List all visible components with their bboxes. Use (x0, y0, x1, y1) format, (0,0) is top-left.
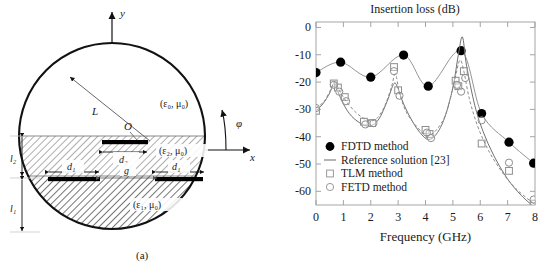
y-tick-label: -10 (295, 48, 311, 62)
legend-item: FDTD method (326, 140, 409, 152)
figure-root: y x φ L O (ε₀, μ₀) (ε₂, μ₀) (ε₁, μ₀) (0, 0, 550, 273)
x-tick-label: 6 (477, 210, 483, 224)
legend-marker-open-circle-icon (326, 183, 333, 190)
radius-leader-line (70, 77, 150, 141)
x-tick-label: 8 (532, 210, 538, 224)
data-point-fdtd (424, 82, 433, 91)
legend-label: FDTD method (341, 140, 409, 152)
region-eps1-label: (ε₁, μ₀) (133, 199, 161, 211)
data-point-fdtd (366, 73, 375, 82)
panel-a-caption: (a) (136, 249, 148, 261)
x-tick-label: 2 (368, 210, 374, 224)
chart-xaxis-label: Frequency (GHz) (380, 229, 471, 244)
y-tick-label: 0 (305, 20, 311, 34)
strip-top-conductor (102, 140, 148, 144)
data-point-fetd (505, 159, 512, 166)
chart-legend: FDTD methodReference solution [23]TLM me… (324, 140, 450, 193)
region-eps0-label: (ε₀, μ₀) (160, 98, 188, 110)
legend-marker-filled-circle-icon (326, 142, 335, 151)
phi-arc-arrow (222, 110, 226, 150)
legend-label: Reference solution [23] (341, 154, 450, 166)
diagram-svg: y x φ L O (ε₀, μ₀) (ε₂, μ₀) (ε₁, μ₀) (0, 0, 280, 273)
data-point-tlm (506, 167, 513, 174)
data-point-fetd (457, 88, 464, 95)
x-tick-label: 5 (450, 210, 456, 224)
y-axis-label: y (119, 7, 125, 19)
x-tick-label: 4 (423, 210, 429, 224)
y-tick-label: -20 (295, 75, 311, 89)
y-tick-label: -40 (295, 130, 311, 144)
dim-g-label: g (124, 165, 129, 176)
x-axis-label: x (249, 151, 255, 163)
legend-item: TLM method (327, 167, 403, 179)
dim-l2-label: l₂ (10, 153, 17, 164)
y-tick-label: -50 (295, 157, 311, 171)
x-tick-label: 3 (395, 210, 401, 224)
data-point-fdtd (529, 159, 538, 168)
x-tick-label: 7 (505, 210, 511, 224)
chart-tick-labels: 0123456780-10-20-30-40-50-60 (295, 20, 538, 224)
data-point-fdtd (399, 50, 408, 59)
data-point-fetd (390, 68, 397, 75)
origin-label: O (124, 120, 132, 132)
data-point-fdtd (336, 58, 345, 67)
legend-item: Reference solution [23] (324, 154, 450, 166)
panel-a-diagram: y x φ L O (ε₀, μ₀) (ε₂, μ₀) (ε₁, μ₀) (0, 0, 280, 273)
region-eps1-fill (10, 176, 220, 236)
strip-bottom-right-conductor (155, 177, 203, 181)
dim-d1-right-label: d₁ (172, 161, 180, 172)
data-point-fdtd (311, 68, 320, 77)
dim-d1-left-label: d₁ (67, 161, 75, 172)
panel-b-chart: Insertion loss (dB) 0123456780-10-20-30-… (280, 0, 550, 273)
dim-l1-label: l₁ (10, 203, 16, 214)
radius-label: L (91, 105, 98, 117)
legend-label: FETD method (341, 181, 407, 193)
legend-item: FETD method (326, 181, 407, 193)
y-tick-label: -60 (295, 184, 311, 198)
legend-label: TLM method (341, 167, 403, 179)
region-eps2-label: (ε₂, μ₀) (159, 145, 187, 157)
data-point-fetd (362, 121, 369, 128)
chart-title: Insertion loss (dB) (370, 2, 459, 16)
x-tick-label: 0 (313, 210, 319, 224)
phi-label: φ (236, 117, 242, 129)
data-point-fetd (478, 117, 485, 124)
x-tick-label: 1 (340, 210, 346, 224)
insertion-loss-chart: Insertion loss (dB) 0123456780-10-20-30-… (280, 0, 550, 273)
y-tick-label: -30 (295, 102, 311, 116)
legend-marker-open-square-icon (327, 170, 334, 177)
data-point-fdtd (504, 138, 513, 147)
strip-bottom-left-conductor (48, 177, 100, 181)
